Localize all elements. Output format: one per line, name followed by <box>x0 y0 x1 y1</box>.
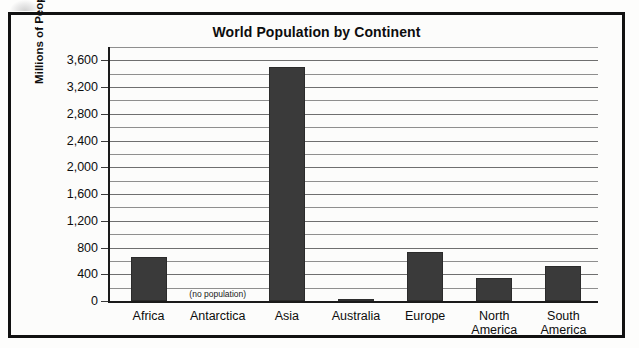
x-axis-category-label: North America <box>471 309 517 337</box>
gridline <box>108 87 598 88</box>
y-axis-tick-label: 0 <box>91 294 98 308</box>
y-axis-tick-label: 2,000 <box>67 160 98 174</box>
chart-title: World Population by Continent <box>11 24 622 40</box>
gridline <box>108 167 598 168</box>
x-axis-category-label: Australia <box>332 309 381 323</box>
y-axis-tick-mark <box>101 248 108 249</box>
y-axis-tick-label: 3,200 <box>67 80 98 94</box>
bar <box>338 299 374 302</box>
gridline <box>108 207 598 208</box>
y-axis-title-text: Millions of People <box>33 0 45 84</box>
x-axis-category-label: Antarctica <box>190 309 246 323</box>
y-axis-tick-mark <box>101 194 108 195</box>
gridline <box>108 181 598 182</box>
gridline <box>108 194 598 195</box>
y-axis-title: Millions of People <box>33 0 45 115</box>
x-axis-category-label: South America <box>541 309 587 337</box>
y-axis-tick-label: 1,600 <box>67 187 98 201</box>
bar-annotation: (no population) <box>189 289 246 299</box>
y-axis-tick-mark <box>101 167 108 168</box>
y-axis-tick-mark <box>101 87 108 88</box>
x-axis-category-label: Europe <box>405 309 445 323</box>
gridline <box>108 74 598 75</box>
y-axis-tick-mark <box>101 141 108 142</box>
y-axis-tick-mark <box>101 274 108 275</box>
y-axis-tick-label: 1,200 <box>67 214 98 228</box>
y-axis-tick-mark <box>101 114 108 115</box>
bar <box>545 266 581 301</box>
gridline <box>108 234 598 235</box>
y-axis-tick-label: 3,600 <box>67 53 98 67</box>
scanned-page: World Population by Continent Millions o… <box>0 0 639 348</box>
gridline <box>108 47 598 48</box>
y-axis-tick-label: 400 <box>77 267 98 281</box>
gridline <box>108 127 598 128</box>
gridline <box>108 100 598 101</box>
gridline <box>108 274 598 275</box>
plot-area: 04008001,2001,6002,0002,4002,8003,2003,6… <box>108 47 598 303</box>
gridline <box>108 288 598 289</box>
chart-figure-frame: World Population by Continent Millions o… <box>8 12 625 338</box>
gridline <box>108 248 598 249</box>
y-axis-tick-label: 800 <box>77 241 98 255</box>
bar <box>476 278 512 301</box>
gridline <box>108 114 598 115</box>
y-axis-tick-mark <box>101 60 108 61</box>
x-axis-category-label: Asia <box>275 309 299 323</box>
bar <box>407 252 443 301</box>
y-axis-tick-label: 2,400 <box>67 134 98 148</box>
y-axis-tick-label: 2,800 <box>67 107 98 121</box>
gridline <box>108 60 598 61</box>
gridline <box>108 261 598 262</box>
y-axis-tick-mark <box>101 301 108 302</box>
x-axis-line <box>108 301 598 303</box>
y-axis-tick-mark <box>101 221 108 222</box>
bar <box>269 67 305 301</box>
gridline <box>108 141 598 142</box>
x-axis-category-label: Africa <box>133 309 165 323</box>
gridline <box>108 221 598 222</box>
gridline <box>108 154 598 155</box>
y-axis-line <box>108 47 110 303</box>
bar <box>131 257 167 301</box>
